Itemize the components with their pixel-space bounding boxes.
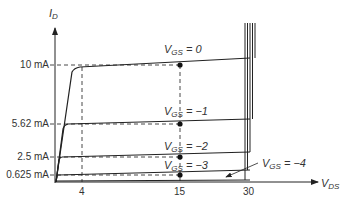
y-axis-label: ID bbox=[49, 8, 58, 21]
curve-label-vgs-0: VGS = 0 bbox=[164, 44, 202, 57]
x-axis-label: VDS bbox=[321, 178, 339, 191]
curve-label-vgs-2: VGS = −2 bbox=[164, 141, 208, 154]
point-15-5.62 bbox=[177, 121, 182, 126]
point-15-0.625 bbox=[177, 172, 182, 177]
y-tick-0.625mA: 0.625 mA bbox=[0, 170, 49, 180]
curve-label-vgs-3: VGS = −3 bbox=[164, 160, 208, 173]
x-tick-15: 15 bbox=[174, 187, 185, 197]
point-15-10 bbox=[177, 62, 182, 67]
y-tick-2.5mA: 2.5 mA bbox=[0, 152, 49, 162]
y-tick-10mA: 10 mA bbox=[0, 60, 49, 70]
x-tick-30: 30 bbox=[243, 187, 254, 197]
y-tick-5.62mA: 5.62 mA bbox=[0, 119, 49, 129]
curve-label-vgs-1: VGS = −1 bbox=[164, 106, 208, 119]
point-15-2.5 bbox=[177, 154, 182, 159]
curve-label-vgs-4: VGS = −4 bbox=[262, 158, 306, 171]
x-tick-4: 4 bbox=[79, 187, 85, 197]
